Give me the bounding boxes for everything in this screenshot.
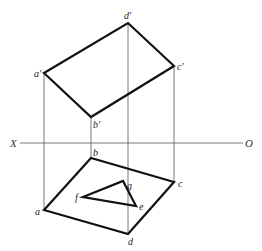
label-a-prime: a′ xyxy=(34,68,42,79)
axis-label-o: O xyxy=(245,137,253,149)
label-e: e xyxy=(139,201,144,212)
label-b: b xyxy=(93,147,98,158)
label-d-prime: d′ xyxy=(124,10,132,21)
front-view-plane xyxy=(44,23,174,117)
label-c-prime: c′ xyxy=(177,61,184,72)
label-b-prime: b′ xyxy=(93,119,101,130)
projection-diagram: X O a′ b′ c′ d′ a b c d f g e xyxy=(0,0,262,251)
label-d: d xyxy=(128,236,134,247)
label-a: a xyxy=(35,206,40,217)
label-f: f xyxy=(75,192,79,203)
label-c: c xyxy=(178,178,183,189)
axis-label-x: X xyxy=(9,137,18,149)
top-view-plane xyxy=(44,158,174,234)
label-g: g xyxy=(127,180,132,191)
